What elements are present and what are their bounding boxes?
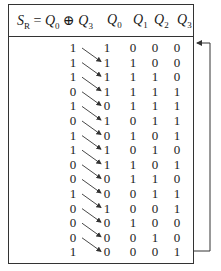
feedback-loop xyxy=(0,0,221,271)
feedback-line xyxy=(194,43,210,251)
